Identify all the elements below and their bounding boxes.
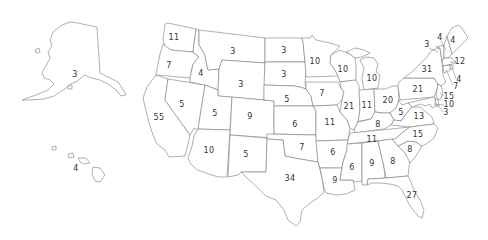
state-label-ne: 5 <box>284 96 289 104</box>
state-label-ar: 6 <box>330 149 335 157</box>
state-label-vt: 3 <box>424 41 429 49</box>
state-AK-island <box>35 48 40 53</box>
state-label-hi: 4 <box>73 165 78 173</box>
state-label-la: 9 <box>332 177 337 185</box>
state-label-ok: 7 <box>299 144 304 152</box>
state-label-mn: 10 <box>310 58 321 66</box>
state-label-tn: 11 <box>367 136 378 144</box>
state-label-pa: 21 <box>413 86 424 94</box>
state-label-in: 11 <box>362 102 373 110</box>
state-label-wi: 10 <box>338 66 349 74</box>
state-HI-oahu <box>68 153 74 158</box>
state-label-oh: 20 <box>383 97 394 105</box>
state-label-va: 13 <box>414 113 425 121</box>
state-label-sc: 8 <box>407 146 412 154</box>
state-AK <box>22 22 126 100</box>
state-label-fl: 27 <box>407 192 418 200</box>
state-label-ks: 6 <box>292 121 297 129</box>
state-label-al: 9 <box>369 160 374 168</box>
state-HI-kauai <box>52 146 56 150</box>
state-label-tx: 34 <box>285 175 296 183</box>
state-label-az: 10 <box>204 147 215 155</box>
state-label-mt: 3 <box>230 48 235 56</box>
state-label-sd: 3 <box>281 71 286 79</box>
leader-line-ct <box>446 70 453 85</box>
state-label-wy: 3 <box>238 81 243 89</box>
state-AK-island <box>68 85 72 89</box>
state-label-nv: 5 <box>179 101 184 109</box>
state-label-ny: 31 <box>422 66 433 74</box>
state-label-de: 3 <box>443 109 448 117</box>
state-label-nm: 5 <box>243 151 248 159</box>
state-label-mo: 11 <box>325 119 336 127</box>
state-label-me: 4 <box>450 37 455 45</box>
state-label-ma: 12 <box>455 58 466 66</box>
state-label-wa: 11 <box>169 34 180 42</box>
leader-line-de <box>437 104 443 112</box>
state-label-ky: 8 <box>375 121 380 129</box>
state-label-ct: 7 <box>453 83 458 91</box>
state-CT <box>443 65 450 73</box>
state-label-co: 9 <box>247 113 252 121</box>
state-label-il: 21 <box>344 103 355 111</box>
state-label-mi: 10 <box>367 75 378 83</box>
state-label-ca: 55 <box>154 114 165 122</box>
state-HI-big <box>92 167 105 182</box>
state-label-ga: 8 <box>390 158 395 166</box>
state-HI-maui <box>78 158 90 164</box>
state-label-ak: 3 <box>72 71 77 79</box>
state-label-wv: 5 <box>398 109 403 117</box>
state-label-nh: 4 <box>437 34 442 42</box>
state-label-nc: 15 <box>413 131 424 139</box>
state-label-or: 7 <box>166 62 171 70</box>
state-label-id: 4 <box>198 70 203 78</box>
state-label-ia: 7 <box>319 90 324 98</box>
state-label-ms: 6 <box>349 164 354 172</box>
state-label-nd: 3 <box>281 47 286 55</box>
state-label-ut: 5 <box>212 110 217 118</box>
